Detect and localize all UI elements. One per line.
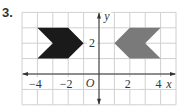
y-axis-label: y bbox=[103, 9, 110, 23]
y-axis-arrow-up-icon bbox=[97, 12, 101, 18]
y-axis-arrow-down-icon bbox=[97, 99, 101, 105]
x-axis-arrow-right-icon bbox=[170, 72, 176, 76]
x-axis-arrow-left-icon bbox=[22, 72, 28, 76]
y-tick-label: 2 bbox=[89, 36, 95, 50]
x-tick-label: 2 bbox=[125, 77, 131, 91]
x-axis-label: x bbox=[165, 77, 172, 91]
x-tick-label: 4 bbox=[156, 77, 162, 91]
x-tick-label: −4 bbox=[29, 77, 42, 91]
origin-label: O bbox=[86, 76, 95, 90]
x-tick-label: −2 bbox=[60, 77, 73, 91]
coordinate-plane: −4−2242Oxy bbox=[0, 0, 186, 112]
